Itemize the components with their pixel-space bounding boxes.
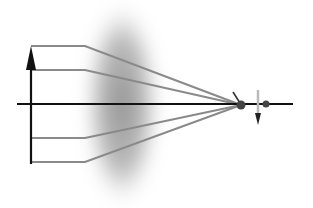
arrow-up-icon	[26, 46, 36, 70]
image-arrow	[255, 90, 261, 125]
lens-ray-diagram	[0, 0, 313, 208]
second-focal-point	[263, 101, 270, 108]
focal-point	[237, 101, 246, 110]
arrow-down-icon	[255, 113, 261, 125]
